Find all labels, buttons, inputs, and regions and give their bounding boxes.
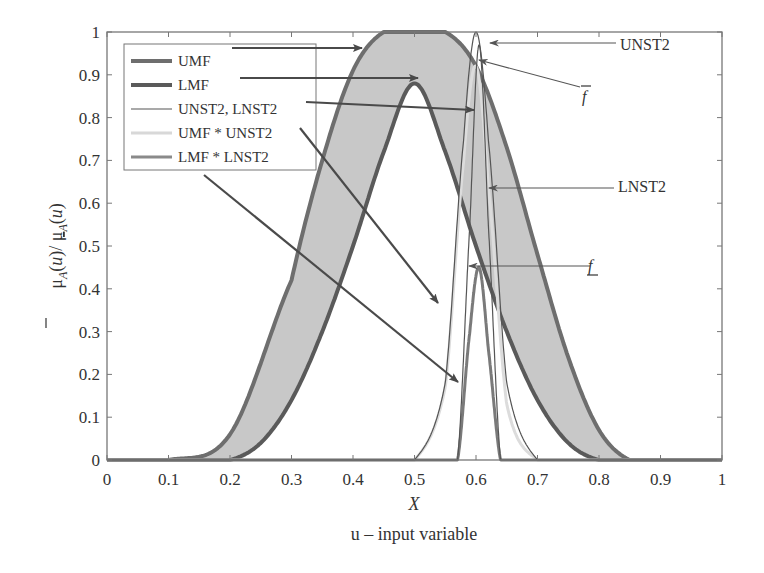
legend-label: UNST2, LNST2 xyxy=(178,101,277,117)
legend-label: LMF xyxy=(178,77,209,93)
y-tick-label: 0.9 xyxy=(79,66,100,85)
x-tick-label: 0.7 xyxy=(527,470,549,489)
y-tick-label: 0 xyxy=(92,451,101,470)
x-axis-label: X xyxy=(408,494,421,514)
annotation-label: UNST2 xyxy=(620,36,670,53)
x-tick-label: 0.6 xyxy=(465,470,486,489)
y-tick-label: 0.7 xyxy=(79,151,101,170)
annotation-arrow xyxy=(479,60,580,87)
x-tick-label: 1 xyxy=(718,470,727,489)
x-tick-label: 0.8 xyxy=(588,470,609,489)
y-tick-label: 0.8 xyxy=(79,109,100,128)
y-tick-label: 0.3 xyxy=(79,323,100,342)
x-tick-label: 0.9 xyxy=(650,470,671,489)
chart: 00.10.20.30.40.50.60.70.80.91 00.10.20.3… xyxy=(0,0,764,573)
y-tick-label: 0.5 xyxy=(79,237,100,256)
x-tick-label: 0.4 xyxy=(342,470,364,489)
x-tick-label: 0.5 xyxy=(404,470,425,489)
annotations: UNST2fLNST2f xyxy=(581,36,670,275)
x-tick-label: 0.1 xyxy=(158,470,179,489)
x-tick-label: 0.2 xyxy=(219,470,240,489)
legend-label: LMF * LNST2 xyxy=(178,149,269,165)
legend-label: UMF * UNST2 xyxy=(178,125,272,141)
svg-text:μA(u)/ μA(u): μA(u)/ μA(u) xyxy=(46,203,70,289)
legend: UMFLMFUNST2, LNST2UMF * UNST2LMF * LNST2 xyxy=(124,44,316,170)
y-tick-label: 0.6 xyxy=(79,194,100,213)
lmf-lnst2-curve xyxy=(107,267,722,460)
annotation-label: f xyxy=(582,88,589,106)
legend-label: UMF xyxy=(178,53,211,69)
y-tick-label: 1 xyxy=(92,23,101,42)
x-tick-label: 0.3 xyxy=(281,470,302,489)
annotation-label: LNST2 xyxy=(618,178,666,195)
x-axis-sublabel: u – input variable xyxy=(351,524,477,544)
y-tick-label: 0.4 xyxy=(79,280,101,299)
y-axis-label: μA(u)/ μA(u) xyxy=(46,203,70,328)
y-tick-label: 0.1 xyxy=(79,408,100,427)
x-tick-label: 0 xyxy=(103,470,112,489)
y-tick-label: 0.2 xyxy=(79,365,100,384)
annotation-label: f xyxy=(588,257,595,275)
